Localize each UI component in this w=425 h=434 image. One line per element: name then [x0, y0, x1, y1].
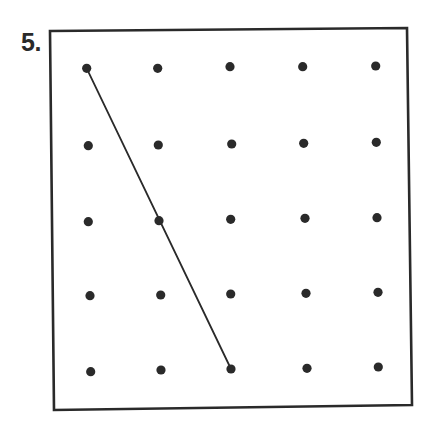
- grid-dot-r3-c3: [226, 215, 235, 224]
- grid-dot-r4-c1: [85, 291, 94, 300]
- grid-dot-r2-c1: [84, 141, 93, 150]
- grid-dot-r5-c2: [156, 365, 165, 374]
- grid-dot-r2-c5: [372, 138, 381, 147]
- grid-dot-r5-c1: [86, 367, 95, 376]
- grid-dot-r2-c4: [299, 139, 308, 148]
- geoboard-diagram: [0, 0, 425, 434]
- grid-dot-r3-c4: [300, 214, 309, 223]
- grid-dot-r3-c1: [84, 217, 93, 226]
- grid-dot-r3-c5: [372, 213, 381, 222]
- grid-dot-r1-c2: [153, 64, 162, 73]
- grid-dot-r2-c3: [227, 139, 236, 148]
- grid-dot-r5-c5: [374, 362, 383, 371]
- grid-dot-r3-c2: [154, 216, 163, 225]
- grid-dot-r4-c4: [301, 289, 310, 298]
- grid-dot-r1-c5: [371, 61, 380, 70]
- grid-dot-r4-c5: [373, 288, 382, 297]
- grid-dot-r5-c4: [302, 364, 311, 373]
- dot-grid: [82, 61, 383, 376]
- grid-dot-r4-c3: [226, 289, 235, 298]
- grid-dot-r1-c1: [82, 64, 91, 73]
- grid-dot-r4-c2: [156, 290, 165, 299]
- grid-dot-r1-c3: [225, 62, 234, 71]
- grid-dot-r2-c2: [154, 140, 163, 149]
- grid-dot-r5-c3: [226, 364, 235, 373]
- grid-dot-r1-c4: [298, 62, 307, 71]
